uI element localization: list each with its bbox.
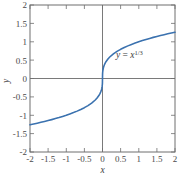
- x-tick-label: 1: [137, 154, 142, 164]
- x-tick-label: 1.5: [151, 154, 163, 164]
- y-tick-label: -0.5: [13, 92, 28, 102]
- x-tick-label: -1: [63, 154, 71, 164]
- y-tick-label: -1: [20, 111, 28, 121]
- x-tick-label: 0: [100, 154, 105, 164]
- x-axis-title: x: [99, 165, 105, 175]
- equation-equals: =: [120, 50, 130, 60]
- x-tick-label: -0.5: [77, 154, 92, 164]
- x-tick-label: -2: [26, 154, 34, 164]
- y-axis-title: y: [1, 78, 11, 84]
- y-tick-label: 0.5: [16, 56, 28, 66]
- y-tick-label: -1.5: [13, 129, 28, 139]
- y-tick-label: 1.5: [16, 19, 28, 29]
- y-tick-label: 1: [23, 37, 28, 47]
- y-tick-label: 0: [23, 74, 28, 84]
- x-tick-label: 2: [173, 154, 178, 164]
- equation-exponent: 1/3: [135, 49, 143, 56]
- plot-figure: 2 1.5 1 0.5 0 -0.5 -1 -1.5 -2 -2 -1.5 -1…: [0, 0, 181, 177]
- plot-svg: 2 1.5 1 0.5 0 -0.5 -1 -1.5 -2 -2 -1.5 -1…: [0, 0, 181, 177]
- x-tick-label: -1.5: [41, 154, 56, 164]
- x-tick-label: 0.5: [115, 154, 127, 164]
- y-tick-label: 2: [23, 0, 28, 10]
